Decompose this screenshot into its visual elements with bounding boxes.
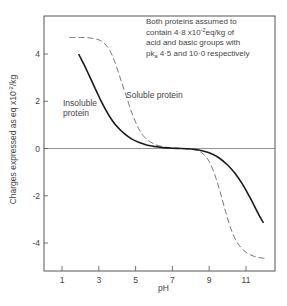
annotation-note: Both proteins assumed tocontain 4·8 x10-… (146, 17, 250, 59)
series-group (69, 37, 264, 258)
x-axis-title: pH (158, 283, 169, 293)
x-tick-label: 1 (60, 275, 65, 285)
insoluble-protein-label-line2: protein (63, 108, 89, 118)
y-tick-label: -4 (32, 238, 40, 248)
chart: 1357911 420-2-4 pH Charges expressed as … (0, 0, 287, 306)
y-tick-label: 2 (35, 96, 40, 106)
annotation-line: contain 4·8 x10-2eq/kg of (146, 27, 235, 37)
x-tick-label: 3 (96, 275, 101, 285)
x-tick-label: 9 (207, 275, 212, 285)
annotation-line: Both proteins assumed to (146, 17, 237, 26)
x-tick-label: 5 (133, 275, 138, 285)
y-tick-label: -2 (32, 191, 40, 201)
y-axis-ticks: 420-2-4 (32, 49, 48, 248)
y-tick-label: 4 (35, 49, 40, 59)
x-axis-ticks: 1357911 (60, 266, 251, 285)
annotation-line: acid and basic groups with (146, 38, 240, 47)
y-axis-title: Charges expressed as eq x10-2/kg (8, 74, 18, 204)
y-tick-label: 0 (35, 144, 40, 154)
annotation-line: pka 4·5 and 10·0 respectively (146, 49, 250, 60)
series-labels: Soluble proteinInsolubleprotein (63, 90, 183, 118)
x-tick-label: 7 (170, 275, 175, 285)
insoluble-protein-curve (79, 54, 264, 223)
insoluble-protein-label: Insoluble (63, 98, 97, 108)
soluble-protein-label: Soluble protein (126, 90, 183, 100)
x-tick-label: 11 (242, 275, 251, 285)
